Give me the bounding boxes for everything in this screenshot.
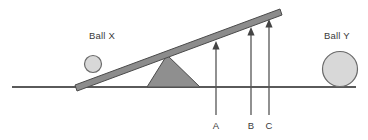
lever-diagram: Ball X Ball Y A B C: [0, 0, 368, 140]
point-label-a: A: [213, 120, 219, 131]
arrow-b-head: [247, 27, 254, 36]
ball-y-circle: [323, 52, 358, 87]
arrow-a-head: [212, 41, 219, 50]
ball-x-label: Ball X: [89, 30, 115, 41]
arrow-b: [247, 27, 254, 115]
arrow-a: [212, 41, 219, 115]
point-label-c: C: [266, 120, 273, 131]
arrow-c: [265, 19, 272, 115]
lever-diagram-canvas: [0, 0, 368, 140]
ball-y-label: Ball Y: [324, 30, 350, 41]
point-label-b: B: [248, 120, 254, 131]
ball-x-circle: [85, 56, 102, 73]
